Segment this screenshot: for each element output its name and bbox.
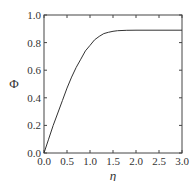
x-tick-label: 3.0 bbox=[175, 155, 189, 167]
y-tick-label: 0.0 bbox=[27, 147, 41, 159]
y-tick-label: 0.2 bbox=[27, 119, 41, 131]
x-tick-label: 1.0 bbox=[83, 155, 97, 167]
plot-area: 0.00.51.01.52.02.53.00.00.20.40.60.81.0η… bbox=[9, 9, 189, 181]
chart: 0.00.51.01.52.02.53.00.00.20.40.60.81.0η… bbox=[0, 0, 196, 181]
x-tick-label: 2.5 bbox=[152, 155, 166, 167]
x-axis-label: η bbox=[110, 168, 116, 181]
plot-frame bbox=[44, 15, 182, 153]
y-tick-label: 0.8 bbox=[27, 37, 41, 49]
x-tick-label: 0.5 bbox=[60, 155, 74, 167]
y-axis-label: Φ bbox=[9, 76, 19, 91]
series-line bbox=[44, 30, 182, 153]
y-tick-label: 1.0 bbox=[27, 9, 41, 21]
x-tick-label: 1.5 bbox=[106, 155, 120, 167]
x-tick-label: 2.0 bbox=[129, 155, 143, 167]
y-tick-label: 0.6 bbox=[27, 64, 41, 76]
y-tick-label: 0.4 bbox=[27, 92, 41, 104]
